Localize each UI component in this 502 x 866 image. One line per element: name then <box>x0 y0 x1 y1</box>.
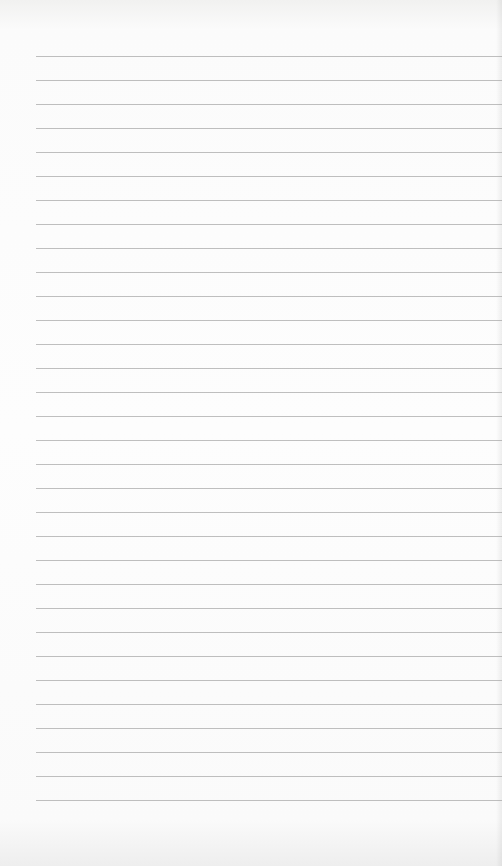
ruled-line <box>36 392 502 393</box>
ruled-line <box>36 80 502 81</box>
ruled-line <box>36 704 502 705</box>
ruled-line <box>36 200 502 201</box>
ruled-line <box>36 440 502 441</box>
ruled-line <box>36 560 502 561</box>
ruled-line <box>36 680 502 681</box>
ruled-line <box>36 296 502 297</box>
ruled-line <box>36 728 502 729</box>
ruled-line <box>36 416 502 417</box>
ruled-line <box>36 368 502 369</box>
ruled-line <box>36 152 502 153</box>
lined-paper-sheet <box>0 0 502 866</box>
paper-edge-shadow <box>496 0 502 866</box>
ruled-line <box>36 128 502 129</box>
ruled-line <box>36 488 502 489</box>
ruled-line <box>36 176 502 177</box>
ruled-line <box>36 512 502 513</box>
ruled-line <box>36 224 502 225</box>
ruled-line <box>36 584 502 585</box>
ruled-line <box>36 464 502 465</box>
ruled-line <box>36 248 502 249</box>
ruled-line <box>36 656 502 657</box>
ruled-line <box>36 800 502 801</box>
ruled-line <box>36 104 502 105</box>
ruled-line <box>36 56 502 57</box>
ruled-line <box>36 608 502 609</box>
ruled-line <box>36 272 502 273</box>
ruled-line <box>36 536 502 537</box>
ruled-line <box>36 752 502 753</box>
ruled-line <box>36 776 502 777</box>
ruled-line <box>36 632 502 633</box>
ruled-line <box>36 320 502 321</box>
ruled-line <box>36 344 502 345</box>
